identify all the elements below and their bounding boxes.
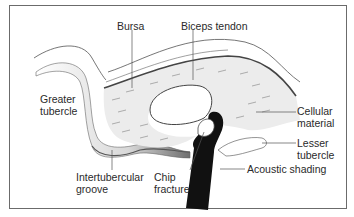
label-biceps-tendon: Biceps tendon [181, 20, 248, 32]
label-greater-tubercle: Greater tubercle [40, 93, 77, 117]
label-chip-fracture: Chip fracture [154, 171, 190, 195]
label-bursa: Bursa [117, 20, 144, 32]
label-intertubercular-groove: Intertubercular groove [76, 171, 144, 195]
label-cellular-material: Cellular material [297, 105, 334, 129]
label-lesser-tubercle: Lesser tubercle [297, 137, 334, 161]
label-acoustic-shading: Acoustic shading [247, 163, 326, 175]
lesser-tubercle [218, 138, 267, 157]
